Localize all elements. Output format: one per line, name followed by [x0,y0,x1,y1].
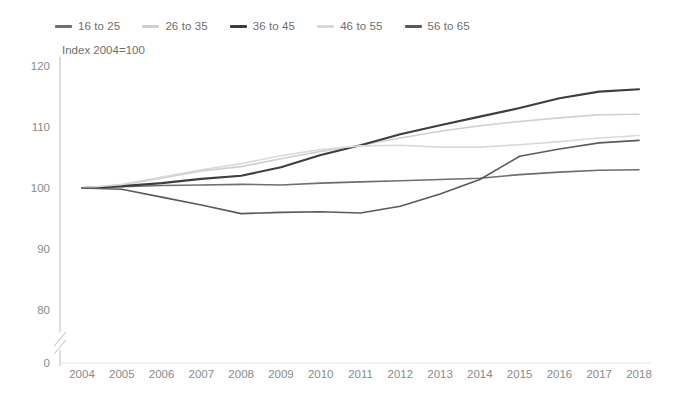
line-chart: 16 to 25 26 to 35 36 to 45 46 to 55 56 t… [0,0,676,402]
legend-item-46-to-55[interactable]: 46 to 55 [317,20,382,32]
legend-swatch-icon [317,25,334,28]
y-axis-tick-label: 80 [16,304,50,316]
chart-subtitle: Index 2004=100 [62,44,145,56]
legend-item-16-to-25[interactable]: 16 to 25 [55,20,120,32]
x-axis-tick-label: 2013 [420,368,460,380]
legend-swatch-icon [230,25,247,28]
axis-break-mark [54,332,66,346]
x-axis-tick-label: 2016 [539,368,579,380]
series-line-16-to-25 [82,170,639,188]
legend-swatch-icon [55,25,72,28]
x-axis-tick-label: 2007 [181,368,221,380]
x-axis-tick-label: 2014 [460,368,500,380]
x-axis-tick-label: 2005 [102,368,142,380]
y-axis-tick-label: 120 [16,60,50,72]
legend-label: 16 to 25 [78,20,120,32]
legend-label: 36 to 45 [253,20,295,32]
y-axis-tick-label: 90 [16,243,50,255]
x-axis-tick-label: 2009 [261,368,301,380]
axis-lines [54,57,651,366]
plot-area [0,0,676,402]
legend-label: 46 to 55 [340,20,382,32]
x-axis-tick-label: 2017 [579,368,619,380]
x-axis-tick-label: 2015 [500,368,540,380]
x-axis-tick-label: 2006 [142,368,182,380]
series-lines [82,89,639,213]
legend-label: 56 to 65 [428,20,470,32]
x-axis-tick-label: 2010 [301,368,341,380]
chart-legend: 16 to 25 26 to 35 36 to 45 46 to 55 56 t… [55,18,470,34]
legend-item-26-to-35[interactable]: 26 to 35 [142,20,207,32]
legend-swatch-icon [142,25,159,28]
series-line-46-to-55 [82,136,639,188]
legend-swatch-icon [405,25,422,28]
y-axis-tick-label: 110 [16,121,50,133]
y-axis-tick-label: 0 [16,357,50,369]
legend-item-56-to-65[interactable]: 56 to 65 [405,20,470,32]
x-axis-tick-label: 2018 [619,368,659,380]
legend-item-36-to-45[interactable]: 36 to 45 [230,20,295,32]
legend-label: 26 to 35 [165,20,207,32]
y-axis-tick-label: 100 [16,182,50,194]
x-axis-tick-label: 2012 [380,368,420,380]
x-axis-tick-label: 2011 [341,368,381,380]
x-axis-tick-label: 2008 [221,368,261,380]
x-axis-tick-label: 2004 [62,368,102,380]
